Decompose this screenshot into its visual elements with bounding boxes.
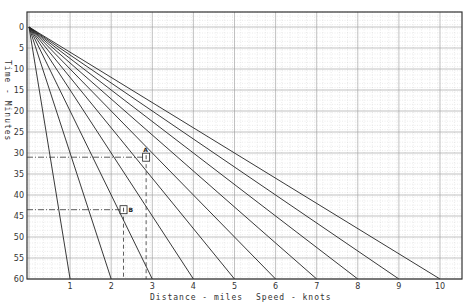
- x-axis-label: Distance - miles: [150, 293, 243, 302]
- x-axis-label-2: Speed - knots: [256, 293, 332, 302]
- x-tick-label: 4: [191, 282, 196, 291]
- y-tick-label: 25: [14, 128, 24, 137]
- y-tick-label: 45: [14, 212, 24, 221]
- svg-text:B: B: [129, 206, 134, 213]
- grid: [27, 12, 462, 279]
- y-axis-label: Time - Minutes: [3, 60, 12, 141]
- x-tick-label: 1: [68, 282, 73, 291]
- y-tick-label: 15: [14, 86, 24, 95]
- y-tick-label: 10: [14, 65, 24, 74]
- x-tick-label: 10: [435, 282, 445, 291]
- nomogram-chart: AB 12345678910051015202530354045505560 T…: [0, 0, 474, 308]
- y-tick-label: 30: [14, 149, 24, 158]
- y-tick-label: 60: [14, 275, 24, 284]
- x-tick-label: 6: [273, 282, 278, 291]
- y-tick-label: 50: [14, 233, 24, 242]
- x-tick-label: 9: [396, 282, 401, 291]
- svg-text:A: A: [143, 146, 148, 153]
- y-tick-label: 0: [19, 23, 24, 32]
- y-tick-label: 35: [14, 170, 24, 179]
- x-tick-label: 2: [109, 282, 114, 291]
- x-tick-label: 5: [232, 282, 237, 291]
- y-tick-label: 55: [14, 254, 24, 263]
- y-tick-label: 20: [14, 107, 24, 116]
- y-tick-label: 5: [19, 44, 24, 53]
- x-tick-label: 7: [314, 282, 319, 291]
- annotations: AB: [27, 146, 150, 279]
- x-tick-label: 8: [355, 282, 360, 291]
- y-tick-label: 40: [14, 191, 24, 200]
- x-tick-label: 3: [150, 282, 155, 291]
